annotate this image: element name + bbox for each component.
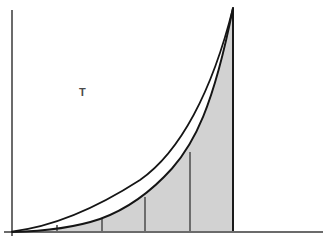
figure-canvas xyxy=(0,0,327,241)
shaded-region-under-curve xyxy=(12,8,233,232)
region-label-T: T xyxy=(79,87,86,98)
figure-container: T xyxy=(0,0,327,241)
